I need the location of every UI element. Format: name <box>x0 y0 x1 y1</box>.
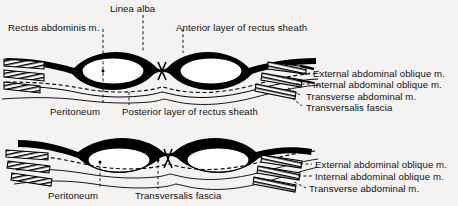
leader-dot-peritoneum-lower <box>99 161 102 164</box>
label-linea-alba: Linea alba <box>110 3 155 14</box>
label-internal-abdominal-oblique-lower: Internal abdominal oblique m. <box>315 171 444 182</box>
label-posterior-layer-of-rectus-sheath: Posterior layer of rectus sheath <box>122 106 258 117</box>
label-peritoneum-upper: Peritoneum <box>50 106 100 117</box>
label-internal-abdominal-oblique-upper: Internal abdominal oblique m. <box>313 79 442 90</box>
rectus-abdominis-left-oval <box>82 58 144 84</box>
label-transverse-abdominal-upper: Transverse abdominal m. <box>306 91 416 102</box>
left-oblique-muscles-lower <box>6 150 52 186</box>
leader-dot-rectus <box>102 70 105 73</box>
label-external-abdominal-oblique-lower: External abdominal oblique m. <box>315 159 447 170</box>
label-external-abdominal-oblique-upper: External abdominal oblique m. <box>313 68 445 79</box>
rectus-abdominis-right-oval-lower <box>187 148 249 172</box>
label-anterior-layer-of-rectus-sheath: Anterior layer of rectus sheath <box>176 22 307 33</box>
label-transversalis-fascia-upper: Transversalis fascia <box>306 102 392 113</box>
left-oblique-muscles-upper <box>4 59 44 93</box>
label-transversalis-fascia-lower: Transversalis fascia <box>135 190 221 201</box>
label-transverse-abdominal-lower: Transverse abdominal m. <box>309 183 419 194</box>
label-rectus-abdominis: Rectus abdominis m. <box>8 22 99 33</box>
leader-dot-tf-lower <box>157 159 160 162</box>
label-peritoneum-lower: Peritoneum <box>48 190 98 201</box>
rectus-abdominis-right-oval <box>180 58 242 84</box>
